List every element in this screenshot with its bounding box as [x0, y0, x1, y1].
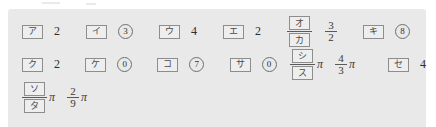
answer-item-sa: サ 0 — [230, 48, 277, 81]
blank-fraction-numerator: ソ — [22, 81, 47, 97]
blank-label-ke: ケ — [85, 58, 106, 72]
answer-row: ア 2 イ 3 ウ 4 エ 2 オ カ — [8, 15, 426, 48]
blank-label-sa: サ — [230, 58, 251, 72]
answer-value-i: 3 — [118, 24, 133, 39]
blank-label-o: オ — [289, 16, 310, 30]
answer-item-o-ka: オ カ 3 2 — [287, 15, 337, 48]
blank-fraction-denominator: カ — [287, 32, 312, 48]
answer-fraction-denominator: 9 — [67, 98, 79, 109]
answer-row: ク 2 ケ 0 コ 7 サ 0 シ ス — [8, 48, 426, 81]
blank-label-se: セ — [388, 58, 409, 72]
page-bleed-strip — [0, 0, 436, 9]
answer-value-ki: 8 — [395, 24, 410, 39]
blank-fraction-numerator: シ — [290, 48, 315, 64]
answer-item-ki: キ 8 — [363, 15, 410, 48]
answer-value-u: 4 — [191, 24, 197, 39]
answer-value-ko: 7 — [189, 57, 204, 72]
blank-label-ta: タ — [24, 99, 45, 113]
blank-label-ka: カ — [289, 33, 310, 47]
blank-fraction-denominator: タ — [22, 98, 47, 114]
answer-item-a: ア 2 — [22, 15, 60, 48]
answer-fraction-numerator: 3 — [325, 20, 337, 31]
answer-item-e: エ 2 — [223, 15, 261, 48]
answer-item-ko: コ 7 — [157, 48, 204, 81]
answer-fraction-denominator: 3 — [335, 65, 347, 76]
blank-fraction-so-ta: ソ タ — [22, 81, 47, 114]
answer-value-a: 2 — [54, 24, 60, 39]
blank-label-a: ア — [22, 25, 43, 39]
blank-label-ki: キ — [363, 25, 384, 39]
blank-label-ko: コ — [157, 58, 178, 72]
blank-label-e: エ — [223, 25, 244, 39]
answer-value-e: 2 — [255, 24, 261, 39]
answer-fraction-so-ta: 2 9 — [67, 86, 79, 109]
blank-label-ku: ク — [22, 58, 43, 72]
pi-symbol-blank: π — [317, 57, 323, 72]
answer-value-se: 4 — [420, 57, 426, 72]
pi-symbol-answer: π — [81, 90, 87, 105]
blank-label-u: ウ — [159, 25, 180, 39]
answer-fraction-numerator: 2 — [67, 86, 79, 97]
answer-value-sa: 0 — [262, 57, 277, 72]
answer-row: ソ タ π 2 9 π — [8, 81, 426, 114]
answer-item-so-ta: ソ タ π 2 9 π — [22, 81, 87, 114]
blank-label-so: ソ — [24, 82, 45, 96]
answer-item-se: セ 4 — [388, 48, 426, 81]
answer-fraction-denominator: 2 — [325, 32, 337, 43]
answer-item-ke: ケ 0 — [85, 48, 132, 81]
blank-fraction-numerator: オ — [287, 15, 312, 31]
blank-label-i: イ — [86, 25, 107, 39]
pi-symbol-answer: π — [349, 57, 355, 72]
answer-item-ku: ク 2 — [22, 48, 60, 81]
blank-label-shi: シ — [292, 49, 313, 63]
answer-item-i: イ 3 — [86, 15, 133, 48]
answer-value-ku: 2 — [54, 57, 60, 72]
answer-fraction-o-ka: 3 2 — [325, 20, 337, 43]
blank-label-su: ス — [292, 66, 313, 80]
answer-value-ke: 0 — [117, 57, 132, 72]
blank-fraction-denominator: ス — [290, 65, 315, 81]
blank-fraction-o-ka: オ カ — [287, 15, 312, 48]
answer-item-u: ウ 4 — [159, 15, 197, 48]
answer-item-shi-su: シ ス π 4 3 π — [290, 48, 355, 81]
blank-fraction-shi-su: シ ス — [290, 48, 315, 81]
answer-fraction-shi-su: 4 3 — [335, 53, 347, 76]
answer-fraction-numerator: 4 — [335, 53, 347, 64]
answer-key-panel: ア 2 イ 3 ウ 4 エ 2 オ カ — [8, 9, 426, 127]
pi-symbol-blank: π — [49, 90, 55, 105]
